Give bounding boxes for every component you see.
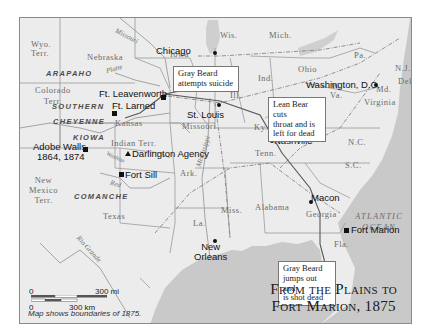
washington-marker-icon bbox=[374, 83, 378, 87]
label-wisconsin: Wis. bbox=[220, 31, 237, 40]
ft-leavenworth-marker-icon bbox=[161, 95, 166, 100]
label-new-mexico-territory: New Mexico Terr. bbox=[29, 176, 58, 205]
place-darlington-agency: Darlington Agency bbox=[132, 149, 209, 159]
label-michigan: Mich. bbox=[269, 31, 292, 40]
label-tribe-cheyenne: CHEYENNE bbox=[53, 118, 105, 126]
callout-line: left for dead bbox=[273, 129, 321, 139]
label-nebraska: Nebraska bbox=[87, 53, 123, 62]
label-illinois: Ill. bbox=[230, 91, 242, 100]
place-macon: Macon bbox=[311, 193, 340, 203]
label-indiana: Ind. bbox=[258, 74, 273, 83]
label-missouri: Missouri bbox=[182, 122, 216, 131]
place-ft-larned: Ft. Larned bbox=[112, 101, 155, 111]
place-new-orleans: New Orleans bbox=[194, 242, 227, 262]
place-chicago: Chicago bbox=[156, 46, 191, 56]
label-pennsylvania: Pa. bbox=[354, 51, 366, 60]
label-kansas: Kansas bbox=[115, 119, 143, 128]
callout-line: attempts suicide bbox=[178, 79, 234, 89]
callout-line: Lean Bear cuts bbox=[273, 100, 321, 120]
label-south-carolina: S.C. bbox=[345, 161, 362, 170]
label-tennessee: Tenn. bbox=[255, 149, 277, 158]
adobe-walls-line2: 1864, 1874 bbox=[33, 152, 89, 162]
place-washington-dc: Washington, D.C. bbox=[306, 80, 380, 90]
new-orleans-marker-icon bbox=[213, 239, 217, 243]
map-frame: Wyo. Terr. Nebraska Iowa Wis. Mich. Pa. … bbox=[19, 17, 412, 324]
label-mississippi: Miss. bbox=[221, 206, 242, 215]
fort-sill-marker-icon bbox=[119, 172, 124, 177]
label-wyoming-territory: Wyo. Terr. bbox=[31, 40, 51, 59]
place-fort-sill: Fort Sill bbox=[125, 170, 157, 180]
label-newmexico-line3: Terr. bbox=[29, 196, 58, 206]
fort-marion-marker-icon bbox=[344, 228, 349, 233]
label-alabama: Alabama bbox=[255, 203, 289, 212]
callout-lean-bear: Lean Bear cuts throat and is left for de… bbox=[268, 97, 326, 142]
place-st-louis: St. Louis bbox=[187, 110, 224, 120]
new-orleans-line2: Orleans bbox=[194, 252, 227, 262]
label-arkansas: Ark. bbox=[180, 169, 197, 178]
place-adobe-walls: Adobe Walls, 1864, 1874 bbox=[33, 142, 89, 163]
darlington-agency-marker-icon bbox=[125, 151, 131, 156]
macon-marker-icon bbox=[309, 200, 313, 204]
place-ft-leavenworth: Ft. Leavenworth bbox=[99, 89, 167, 99]
adobe-walls-marker-icon bbox=[83, 147, 88, 152]
label-new-jersey: N.J. bbox=[395, 64, 411, 73]
label-florida: Fla. bbox=[334, 240, 349, 249]
label-texas: Texas bbox=[103, 212, 125, 221]
place-fort-marion: Fort Marion bbox=[351, 225, 400, 235]
ft-larned-marker-icon bbox=[112, 111, 117, 116]
label-colorado-line1: Colorado bbox=[35, 85, 71, 96]
label-wva-line2: Va. bbox=[330, 91, 343, 100]
map-title-line2: Fort Marion, 1875 bbox=[270, 298, 397, 315]
label-tribe-comanche: COMANCHE bbox=[74, 193, 129, 201]
label-tribe-arapaho: ARAPAHO bbox=[46, 70, 92, 78]
label-delaware: Del. bbox=[398, 77, 412, 86]
st-louis-marker-icon bbox=[217, 103, 221, 107]
label-georgia: Georgia bbox=[306, 210, 337, 219]
label-tribe-southern: SOUTHERN bbox=[52, 103, 105, 111]
map-boundaries-note: Map shows boundaries of 1875. bbox=[28, 309, 141, 318]
lake-michigan-shape bbox=[206, 20, 220, 54]
label-kentucky: Ky. bbox=[254, 123, 267, 132]
label-indian-territory: Indian Terr. bbox=[111, 139, 156, 148]
label-atlantic-line1: ATLANTIC bbox=[355, 211, 403, 222]
label-ohio: Ohio bbox=[298, 65, 317, 74]
label-north-carolina: N.C. bbox=[348, 138, 366, 147]
label-louisiana: La. bbox=[193, 219, 206, 228]
label-virginia: Virginia bbox=[364, 98, 396, 107]
scale-bar bbox=[31, 295, 109, 303]
lake-erie-shape bbox=[298, 30, 338, 56]
chicago-marker-icon bbox=[213, 51, 217, 55]
map-title: From the Plains to Fort Marion, 1875 bbox=[270, 281, 397, 316]
map-basemap bbox=[20, 18, 412, 324]
label-wyoming-line2: Terr. bbox=[31, 49, 51, 58]
callout-gray-beard-suicide: Gray Beard attempts suicide bbox=[173, 66, 239, 92]
map-title-line1: From the Plains to bbox=[270, 281, 397, 298]
